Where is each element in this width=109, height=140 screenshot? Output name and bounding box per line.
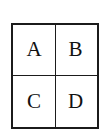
grid-cell-label-d: D bbox=[68, 91, 83, 112]
grid-diagram: A B C D bbox=[11, 23, 99, 129]
figure-canvas: A B C D bbox=[0, 0, 109, 140]
grid-cell-top-left: A bbox=[13, 25, 56, 76]
grid-cell-bottom-left: C bbox=[13, 76, 56, 127]
grid-cell-label-c: C bbox=[27, 91, 41, 112]
grid-cell-label-b: B bbox=[68, 39, 82, 60]
grid-cell-label-a: A bbox=[26, 39, 41, 60]
grid-cell-bottom-right: D bbox=[56, 76, 97, 127]
grid-cell-top-right: B bbox=[56, 25, 97, 76]
